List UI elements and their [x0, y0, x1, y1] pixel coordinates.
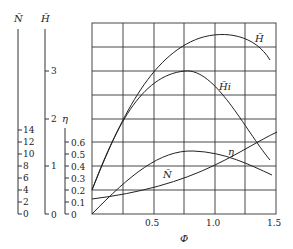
- svg-text:2: 2: [51, 114, 57, 124]
- plot-grid: [92, 23, 276, 214]
- svg-text:1: 1: [51, 161, 57, 171]
- h-axis-title: H̄: [40, 13, 50, 24]
- x-axis-ticks: 0.5 1.0 1.5: [145, 218, 282, 228]
- eta-axis-ticks: 0 0.1 0.2 0.3 0.4 0.5 0.6: [71, 138, 86, 220]
- svg-text:8: 8: [23, 161, 29, 171]
- chart-canvas: N̄ 0 2 4 6 8 10 12 14 H̄ 0 1 2 3 η 0 0.1: [0, 0, 293, 249]
- svg-text:3: 3: [51, 66, 57, 76]
- n-axis-title: N̄: [13, 13, 24, 24]
- h-axis-ticks: 0 1 2 3: [51, 66, 57, 220]
- svg-text:0.4: 0.4: [71, 162, 86, 172]
- eta-axis-title: η: [62, 113, 68, 124]
- svg-text:0.5: 0.5: [71, 150, 86, 160]
- curve-H: [92, 34, 270, 190]
- label-H: H̄: [254, 33, 264, 44]
- svg-text:10: 10: [23, 149, 35, 159]
- svg-text:1.0: 1.0: [206, 218, 221, 228]
- svg-text:12: 12: [23, 137, 34, 147]
- svg-text:6: 6: [23, 173, 29, 183]
- svg-text:4: 4: [23, 185, 29, 195]
- svg-text:0: 0: [71, 210, 77, 220]
- svg-text:1.5: 1.5: [267, 218, 282, 228]
- x-axis-title: Φ̄: [180, 233, 188, 244]
- svg-text:0: 0: [23, 209, 29, 219]
- label-N: N̄: [162, 169, 173, 180]
- svg-text:0: 0: [51, 210, 57, 220]
- svg-text:14: 14: [23, 125, 35, 135]
- svg-text:0.6: 0.6: [71, 138, 86, 148]
- h-axis: [45, 29, 49, 214]
- eta-axis: [65, 128, 69, 214]
- svg-text:0.5: 0.5: [145, 218, 160, 228]
- svg-text:2: 2: [23, 197, 29, 207]
- label-Hi: H̄i: [218, 81, 231, 92]
- svg-text:0.3: 0.3: [71, 174, 86, 184]
- n-axis-ticks: 0 2 4 6 8 10 12 14: [23, 125, 35, 219]
- svg-text:0.1: 0.1: [71, 198, 85, 208]
- label-eta: η: [228, 146, 234, 157]
- n-axis: [18, 29, 22, 214]
- curve-Hi: [92, 71, 270, 190]
- svg-text:0.2: 0.2: [71, 186, 85, 196]
